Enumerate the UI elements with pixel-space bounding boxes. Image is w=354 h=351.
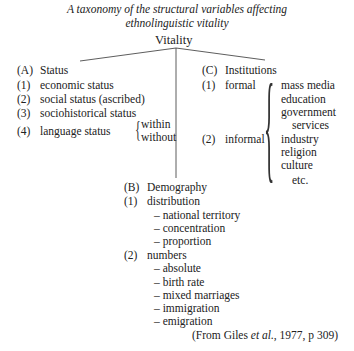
- institutions-item-label: informal: [225, 133, 265, 146]
- status-item-label: social status (ascribed): [40, 93, 145, 106]
- institutions-marker: (C): [202, 64, 217, 77]
- language-status-sub: within: [141, 118, 170, 131]
- institutions-item-marker: (1): [202, 79, 215, 92]
- demography-group-label: numbers: [147, 249, 187, 262]
- citation: (From Giles et al., 1977, p 309): [192, 329, 338, 342]
- demography-subitem: – absolute: [154, 262, 201, 275]
- status-item-marker: (3): [17, 107, 30, 120]
- demography-subitem: – immigration: [154, 302, 219, 315]
- institution-example: religion: [281, 146, 317, 159]
- status-marker: (A): [17, 64, 33, 77]
- demography-group-label: distribution: [147, 195, 200, 208]
- institution-example: services: [292, 119, 329, 132]
- institution-example: industry: [281, 133, 319, 146]
- citation-suffix: , 1977, p 309): [274, 329, 338, 341]
- citation-etal: et al.: [251, 329, 274, 341]
- institutions-item-marker: (2): [202, 133, 215, 146]
- institutions-item-label: formal: [225, 79, 256, 92]
- demography-group-marker: (2): [124, 249, 137, 262]
- institution-example: education: [281, 93, 326, 106]
- status-item-label: language status: [40, 125, 111, 138]
- institution-example: etc.: [292, 174, 308, 187]
- demography-marker: (B): [124, 181, 139, 194]
- branch-line-institutions: [176, 48, 265, 60]
- institution-example: government: [281, 106, 336, 119]
- demography-subitem: – concentration: [154, 222, 225, 235]
- demography-subitem: – proportion: [154, 235, 211, 248]
- demography-heading: Demography: [147, 181, 207, 194]
- status-item-marker: (2): [17, 93, 30, 106]
- status-item-marker: (1): [17, 79, 30, 92]
- demography-subitem: – mixed marriages: [154, 289, 240, 302]
- language-status-sub: without: [141, 131, 176, 144]
- demography-subitem: – emigration: [154, 315, 212, 328]
- status-heading: Status: [40, 64, 68, 77]
- status-item-marker: (4): [17, 125, 30, 138]
- citation-prefix: (From Giles: [192, 329, 251, 341]
- demography-subitem: – national territory: [154, 209, 240, 222]
- institution-example: culture: [281, 159, 313, 172]
- status-item-label: sociohistorical status: [40, 107, 136, 120]
- curly-brace-icon: {: [135, 117, 141, 141]
- demography-group-marker: (1): [124, 195, 137, 208]
- status-item-label: economic status: [40, 79, 114, 92]
- branch-line-status: [80, 48, 176, 61]
- curly-brace-icon: {: [264, 72, 274, 182]
- demography-subitem: – birth rate: [154, 276, 204, 289]
- institution-example: mass media: [281, 79, 335, 92]
